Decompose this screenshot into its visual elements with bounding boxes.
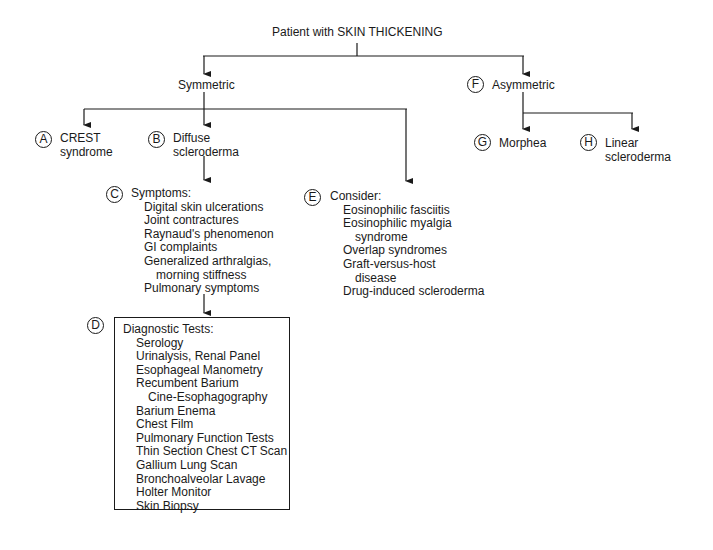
symptoms-title: Symptoms:: [131, 187, 274, 201]
list-item: Gallium Lung Scan: [123, 459, 287, 473]
badge-f: F: [467, 76, 484, 93]
list-item: Holter Monitor: [123, 486, 287, 500]
list-item: Chest Film: [123, 418, 287, 432]
badge-g: G: [474, 134, 491, 151]
list-item: Eosinophilic fasciitis: [330, 204, 484, 218]
crest-line2: syndrome: [60, 146, 113, 160]
list-item: Barium Enema: [123, 405, 287, 419]
diagnostic-list: SerologyUrinalysis, Renal PanelEsophagea…: [123, 337, 287, 514]
morphea-node-label: Morphea: [499, 137, 546, 151]
list-item: Recumbent Barium: [123, 377, 287, 391]
list-item: Esophageal Manometry: [123, 364, 287, 378]
symptoms-node: Symptoms: Digital skin ulcerationsJoint …: [131, 187, 274, 296]
consider-list: Eosinophilic fasciitisEosinophilic myalg…: [330, 204, 484, 299]
diffuse-node-label: Diffuse scleroderma: [173, 132, 239, 159]
list-item: Eosinophilic myalgia: [330, 217, 484, 231]
list-item: Serology: [123, 337, 287, 351]
list-item: Urinalysis, Renal Panel: [123, 350, 287, 364]
symptoms-list: Digital skin ulcerationsJoint contractur…: [131, 201, 274, 296]
list-item: GI complaints: [131, 241, 274, 255]
diffuse-line2: scleroderma: [173, 146, 239, 160]
badge-e: E: [304, 189, 321, 206]
list-item: Bronchoalveolar Lavage: [123, 473, 287, 487]
list-item: Pulmonary symptoms: [131, 282, 274, 296]
list-item: Digital skin ulcerations: [131, 201, 274, 215]
list-item: Joint contractures: [131, 214, 274, 228]
list-item: Skin Biopsy: [123, 500, 287, 514]
consider-title: Consider:: [330, 190, 484, 204]
list-item: Drug-induced scleroderma: [330, 285, 484, 299]
diagnostic-node: Diagnostic Tests: SerologyUrinalysis, Re…: [123, 323, 287, 513]
linear-node-label: Linear scleroderma: [605, 137, 671, 164]
list-item: Pulmonary Function Tests: [123, 432, 287, 446]
consider-node: Consider: Eosinophilic fasciitisEosinoph…: [330, 190, 484, 299]
badge-c: C: [106, 186, 123, 203]
list-item: disease: [330, 272, 484, 286]
badge-d: D: [87, 317, 104, 334]
list-item: Graft-versus-host: [330, 258, 484, 272]
list-item: Generalized arthralgias,: [131, 255, 274, 269]
root-node-label: Patient with SKIN THICKENING: [272, 26, 443, 40]
list-item: morning stiffness: [131, 269, 274, 283]
list-item: Overlap syndromes: [330, 244, 484, 258]
linear-line1: Linear: [605, 137, 671, 151]
diffuse-line1: Diffuse: [173, 132, 239, 146]
list-item: Cine-Esophagography: [123, 391, 287, 405]
linear-line2: scleroderma: [605, 151, 671, 165]
list-item: syndrome: [330, 231, 484, 245]
badge-b: B: [148, 131, 165, 148]
list-item: Raynaud's phenomenon: [131, 228, 274, 242]
asymmetric-node-label: Asymmetric: [492, 79, 555, 93]
badge-a: A: [35, 131, 52, 148]
crest-node-label: CREST syndrome: [60, 132, 113, 159]
badge-h: H: [580, 134, 597, 151]
crest-line1: CREST: [60, 132, 113, 146]
diagnostic-title: Diagnostic Tests:: [123, 323, 287, 337]
list-item: Thin Section Chest CT Scan: [123, 445, 287, 459]
symmetric-node-label: Symmetric: [178, 79, 235, 93]
